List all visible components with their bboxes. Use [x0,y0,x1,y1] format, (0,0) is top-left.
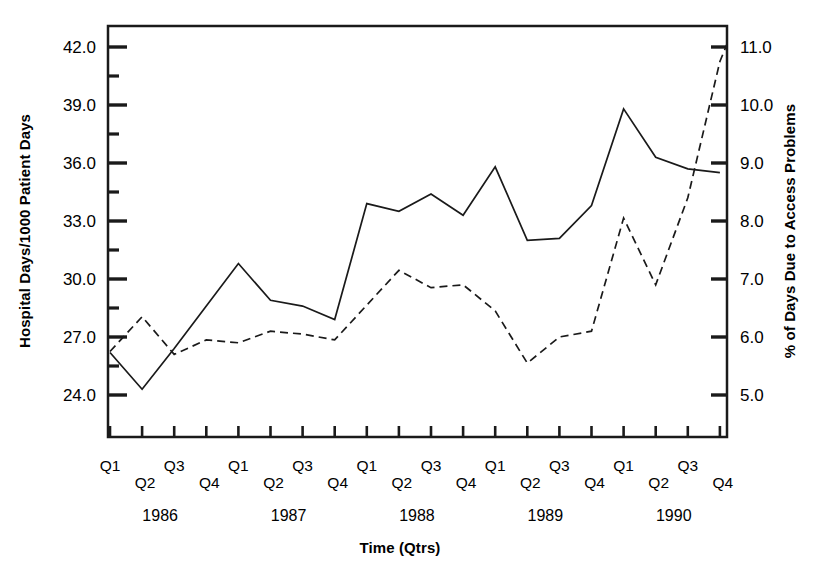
x-axis-year-labels: 19861987198819891990 [142,507,691,524]
x-quarter-label: Q3 [677,457,698,474]
right-axis-tick-labels: 5.06.07.08.09.010.011.0 [740,38,773,405]
x-quarter-label: Q2 [392,474,413,491]
x-axis-quarter-labels: Q1Q2Q3Q4Q1Q2Q3Q4Q1Q2Q3Q4Q1Q2Q3Q4Q1Q2Q3Q4 [100,457,734,491]
y2-axis-title: % of Days Due to Access Problems [781,104,798,358]
x-quarter-label: Q4 [584,474,605,491]
left-tick-label: 36.0 [63,154,96,173]
x-axis-ticks [110,426,720,437]
x-year-label: 1988 [399,507,435,524]
x-quarter-label: Q2 [263,474,284,491]
right-tick-label: 10.0 [740,96,773,115]
x-axis-title: Time (Qtrs) [360,539,441,556]
left-tick-label: 39.0 [63,96,96,115]
x-year-label: 1989 [528,507,564,524]
left-axis-ticks [108,47,127,395]
x-quarter-label: Q4 [199,474,220,491]
left-tick-label: 27.0 [63,328,96,347]
plot-frame [108,26,727,437]
x-year-label: 1986 [142,507,178,524]
line-chart-svg: 24.027.030.033.036.039.042.0 5.06.07.08.… [0,0,820,575]
right-tick-label: 5.0 [740,386,764,405]
x-quarter-label: Q1 [100,457,121,474]
left-tick-label: 33.0 [63,212,96,231]
left-tick-label: 42.0 [63,38,96,57]
x-quarter-label: Q4 [327,474,348,491]
left-axis-tick-labels: 24.027.030.033.036.039.042.0 [63,38,96,405]
right-tick-label: 8.0 [740,212,764,231]
chart-figure: 24.027.030.033.036.039.042.0 5.06.07.08.… [0,0,820,575]
left-tick-label: 24.0 [63,386,96,405]
x-quarter-label: Q1 [613,457,634,474]
left-tick-label: 30.0 [63,270,96,289]
right-tick-label: 6.0 [740,328,764,347]
x-quarter-label: Q1 [356,457,377,474]
series-line-hospital-days [110,109,720,389]
y-axis-title: Hospital Days/1000 Patient Days [16,114,33,348]
x-quarter-label: Q1 [228,457,249,474]
x-quarter-label: Q2 [648,474,669,491]
x-quarter-label: Q3 [549,457,570,474]
x-quarter-label: Q1 [485,457,506,474]
x-year-label: 1990 [656,507,692,524]
x-quarter-label: Q2 [135,474,156,491]
x-quarter-label: Q3 [292,457,313,474]
x-quarter-label: Q3 [164,457,185,474]
x-quarter-label: Q4 [456,474,477,491]
x-quarter-label: Q4 [713,474,734,491]
x-quarter-label: Q3 [421,457,442,474]
right-tick-label: 11.0 [740,38,772,57]
x-year-label: 1987 [271,507,307,524]
x-quarter-label: Q2 [520,474,541,491]
right-tick-label: 7.0 [740,270,764,289]
right-axis-ticks [711,47,727,395]
right-tick-label: 9.0 [740,154,764,173]
series-line-access-problems [110,44,727,363]
